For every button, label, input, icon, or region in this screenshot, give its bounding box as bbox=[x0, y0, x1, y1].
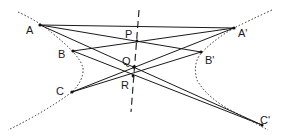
segment-B-Aprime bbox=[73, 28, 234, 51]
pascal-line bbox=[131, 10, 139, 112]
point-A-prime bbox=[232, 26, 235, 29]
hyperbola-diagram: A B C A' B' C' P Q R bbox=[0, 0, 284, 138]
label-A-prime: A' bbox=[238, 27, 247, 39]
point-R bbox=[132, 75, 135, 78]
point-C bbox=[70, 90, 73, 93]
label-Q: Q bbox=[122, 55, 131, 67]
point-P bbox=[136, 40, 139, 43]
label-P: P bbox=[125, 28, 132, 40]
point-B bbox=[71, 49, 74, 52]
label-B-prime: B' bbox=[205, 54, 214, 66]
segment-A-Aprime bbox=[40, 25, 234, 28]
point-A bbox=[38, 23, 41, 26]
point-B-prime bbox=[199, 50, 202, 53]
label-C: C bbox=[56, 85, 64, 97]
label-C-prime: C' bbox=[260, 114, 270, 126]
label-A: A bbox=[26, 24, 34, 36]
hyperbola-left-branch bbox=[8, 12, 83, 130]
point-Q bbox=[132, 65, 136, 69]
label-B: B bbox=[58, 48, 65, 60]
label-R: R bbox=[121, 79, 129, 91]
